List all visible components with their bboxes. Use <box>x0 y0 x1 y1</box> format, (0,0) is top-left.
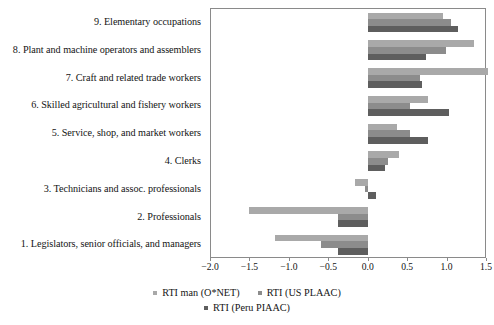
bar-group <box>210 175 486 203</box>
bar-group <box>210 8 486 36</box>
bar <box>368 109 449 116</box>
category-axis-labels: 9. Elementary occupations8. Plant and ma… <box>0 8 206 258</box>
bar <box>368 124 397 131</box>
bar <box>368 75 420 82</box>
legend-label: RTI man (O*NET) <box>162 287 239 298</box>
legend-row: RTI (Peru PIAAC) <box>0 300 494 315</box>
category-label: 5. Service, shop, and market workers <box>0 119 206 147</box>
bar <box>368 81 422 88</box>
category-label: 1. Legislators, senior officials, and ma… <box>0 230 206 258</box>
bar-group <box>210 230 486 258</box>
bar <box>368 19 451 26</box>
bar <box>368 165 385 172</box>
category-label: 3. Technicians and assoc. professionals <box>0 175 206 203</box>
x-tick-label: −0.5 <box>320 261 337 272</box>
bar <box>275 235 368 242</box>
bar <box>368 137 428 144</box>
bar-group <box>210 119 486 147</box>
x-tick-label: 0.0 <box>362 261 374 272</box>
plot-area <box>210 8 486 258</box>
bar <box>355 179 368 186</box>
bar <box>368 13 443 20</box>
bar-group <box>210 36 486 64</box>
legend-entry[interactable]: RTI (US PLAAC) <box>258 287 341 298</box>
bar <box>368 26 459 33</box>
bar <box>368 158 389 165</box>
bar <box>368 40 474 47</box>
bar-group <box>210 91 486 119</box>
category-label: 9. Elementary occupations <box>0 8 206 36</box>
category-label: 4. Clerks <box>0 147 206 175</box>
legend-swatch-icon <box>153 291 157 295</box>
chart-figure: 9. Elementary occupations8. Plant and ma… <box>0 0 494 325</box>
bar <box>338 248 368 255</box>
x-tick-label: −1.5 <box>241 261 258 272</box>
bar <box>368 68 489 75</box>
x-tick-label: 1.0 <box>441 261 453 272</box>
bar <box>368 130 411 137</box>
x-tick-label: −1.0 <box>280 261 297 272</box>
bar-group <box>210 147 486 175</box>
bar <box>338 220 368 227</box>
bar <box>368 192 376 199</box>
category-label: 6. Skilled agricultural and fishery work… <box>0 91 206 119</box>
bar <box>368 47 446 54</box>
chart-legend: RTI man (O*NET)RTI (US PLAAC) RTI (Peru … <box>0 285 494 319</box>
x-tick-label: 0.5 <box>401 261 413 272</box>
legend-swatch-icon <box>204 306 208 310</box>
category-label: 7. Craft and related trade workers <box>0 64 206 92</box>
x-axis-tick-labels: −2.0−1.5−1.0−0.50.00.51.01.5 <box>210 261 486 275</box>
legend-entry[interactable]: RTI man (O*NET) <box>153 287 239 298</box>
bar <box>338 214 368 221</box>
bar <box>365 186 368 193</box>
bar <box>368 54 426 61</box>
bar <box>368 151 400 158</box>
bar <box>321 241 368 248</box>
legend-entry[interactable]: RTI (Peru PIAAC) <box>204 302 290 313</box>
bar <box>368 96 428 103</box>
x-tick-label: −2.0 <box>201 261 218 272</box>
legend-row: RTI man (O*NET)RTI (US PLAAC) <box>0 285 494 300</box>
bar-group <box>210 202 486 230</box>
legend-swatch-icon <box>258 291 262 295</box>
x-tick-label: 1.5 <box>480 261 492 272</box>
category-label: 2. Professionals <box>0 203 206 231</box>
legend-label: RTI (US PLAAC) <box>267 287 341 298</box>
legend-label: RTI (Peru PIAAC) <box>213 302 290 313</box>
bar <box>249 207 367 214</box>
bar <box>368 103 411 110</box>
bar-group <box>210 64 486 92</box>
category-label: 8. Plant and machine operators and assem… <box>0 36 206 64</box>
